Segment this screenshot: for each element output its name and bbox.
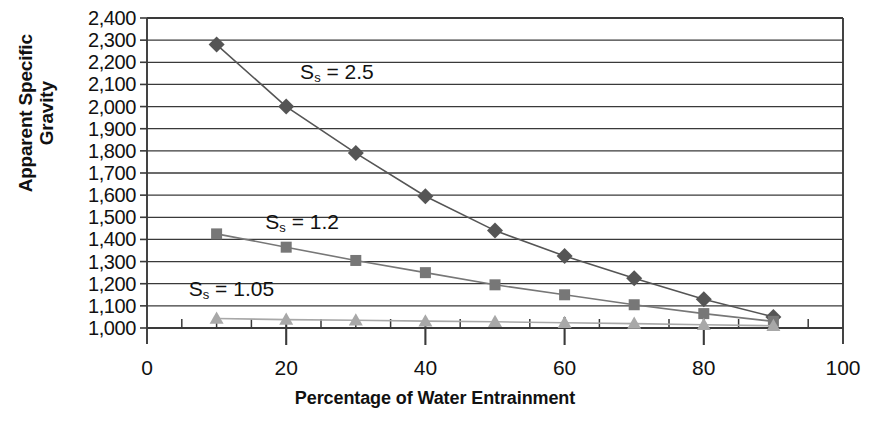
- x-axis-tick-label: 100: [825, 356, 860, 380]
- x-axis-title: Percentage of Water Entrainment: [0, 388, 870, 409]
- x-axis-tick-label: 0: [141, 356, 153, 380]
- chart-figure: Apparent Specific Gravity 1,0001,1001,20…: [0, 0, 870, 421]
- series-label: Ss = 1.2: [265, 210, 339, 234]
- series-label: Ss = 1.05: [189, 277, 274, 301]
- x-axis-tick-labels: 020406080100: [0, 0, 870, 421]
- x-axis-tick-label: 20: [275, 356, 298, 380]
- series-label: Ss = 2.5: [300, 60, 374, 84]
- x-axis-tick-label: 60: [553, 356, 576, 380]
- x-axis-tick-label: 40: [414, 356, 437, 380]
- x-axis-tick-label: 80: [692, 356, 715, 380]
